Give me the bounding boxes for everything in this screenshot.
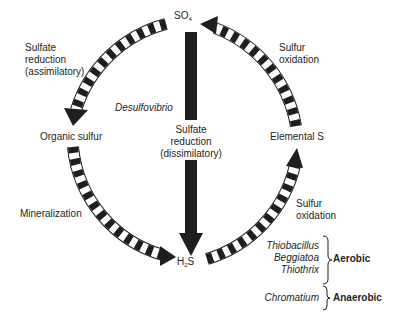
label-oxidation-bottom: Sulfur oxidation: [296, 198, 336, 222]
brace-aerobic: [323, 236, 332, 284]
arrow-mineralization: [73, 147, 176, 266]
label-mineralization: Mineralization: [20, 208, 82, 220]
node-so4: SO4: [174, 10, 192, 22]
node-h2s: H2S: [177, 256, 194, 268]
node-organic-sulfur: Organic sulfur: [40, 131, 102, 143]
anaerobic-organisms: Chromatium: [263, 292, 319, 304]
label-dissimilatory: Sulfate reduction (dissimilatory): [150, 124, 232, 160]
aerobic-organisms: Thiobacillus Beggiatoa Thiothrix: [263, 240, 319, 276]
label-desulfovibrio: Desulfovibrio: [115, 102, 173, 114]
label-aerobic: Aerobic: [333, 253, 370, 265]
label-assimilatory: Sulfate reduction (assimilatory): [25, 42, 84, 78]
node-elemental-s: Elemental S: [270, 131, 324, 143]
label-oxidation-top: Sulfur oxidation: [279, 42, 319, 66]
brace-anaerobic: [323, 286, 330, 310]
label-anaerobic: Anaerobic: [333, 292, 382, 304]
arrow-oxidation-top: [200, 16, 296, 126]
